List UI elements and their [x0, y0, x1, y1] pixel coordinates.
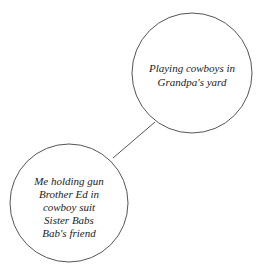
- node-detail-line-2: Brother Ed in: [39, 188, 100, 200]
- node-detail-line-5: Bab's friend: [42, 227, 96, 239]
- node-detail-line-3: cowboy suit: [43, 201, 96, 213]
- node-detail: Me holding gun Brother Ed in cowboy suit…: [10, 144, 128, 262]
- node-main: Playing cowboys in Grandpa's yard: [132, 13, 252, 133]
- node-detail-line-1: Me holding gun: [33, 175, 104, 187]
- node-main-line-1: Playing cowboys in: [148, 62, 236, 74]
- mind-map-diagram: Playing cowboys in Grandpa's yard Me hol…: [0, 0, 256, 264]
- node-main-line-2: Grandpa's yard: [158, 76, 227, 88]
- connector-line: [113, 122, 155, 158]
- node-detail-line-4: Sister Babs: [44, 214, 94, 226]
